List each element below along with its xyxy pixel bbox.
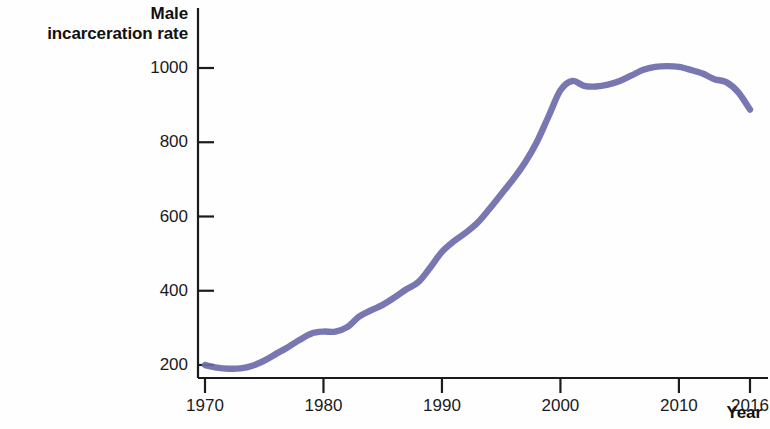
y-axis-ticks [198,68,214,365]
x-axis-tick-label: 2010 [660,396,698,416]
x-axis-tick-label: 2000 [542,396,580,416]
y-axis-tick-label: 1000 [80,58,188,78]
x-axis-tick-label: 1980 [305,396,343,416]
data-line-0 [205,66,750,369]
chart-figure: Male incarceration rate Year 20040060080… [0,0,770,429]
data-series-group [205,66,750,369]
y-axis-tick-label: 200 [80,355,188,375]
x-axis-tick-label: 2016 [731,396,769,416]
axes [198,8,768,378]
x-axis-ticks [205,378,750,393]
x-axis-tick-label: 1990 [423,396,461,416]
x-axis-tick-label: 1970 [186,396,224,416]
y-axis-tick-label: 600 [80,207,188,227]
y-axis-tick-label: 800 [80,132,188,152]
y-axis-tick-label: 400 [80,281,188,301]
